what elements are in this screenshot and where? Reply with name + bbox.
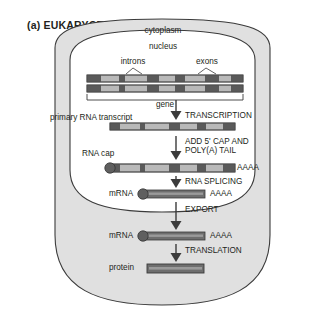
protein-bar	[147, 264, 204, 273]
figure-canvas: (a) EUKARYOTES	[0, 0, 325, 319]
dna-strand-top	[87, 75, 243, 82]
label-mrna-cytoplasmic: mRNA	[109, 232, 133, 240]
label-polya-capped: AAAA	[237, 164, 259, 172]
label-polya-nuclear: AAAA	[210, 190, 232, 198]
step-label-translation: TRANSLATION	[185, 246, 242, 255]
rna-cap-marker-nuclear	[138, 189, 148, 199]
rna-cap-marker	[105, 163, 115, 173]
rna-cap-marker-cytoplasmic	[138, 231, 148, 241]
step-label-capping-line1: ADD 5' CAP AND	[185, 137, 249, 146]
primary-rna-transcript-bar	[110, 123, 235, 130]
label-nucleus: nucleus	[149, 43, 177, 51]
label-primary-rna-transcript: primary RNA transcript	[50, 114, 132, 122]
mrna-cytoplasmic-bar	[138, 231, 205, 241]
capped-transcript-bar	[105, 163, 235, 173]
step-label-splicing: RNA SPLICING	[185, 177, 242, 186]
label-cytoplasm: cytoplasm	[145, 27, 182, 35]
label-protein: protein	[109, 264, 134, 272]
dna-strand-bottom	[87, 85, 243, 92]
label-mrna-nuclear: mRNA	[109, 190, 133, 198]
step-label-export: EXPORT	[185, 205, 219, 214]
label-introns: introns	[121, 58, 146, 66]
step-label-transcription: TRANSCRIPTION	[185, 111, 252, 120]
label-rna-cap: RNA cap	[82, 150, 114, 158]
label-polya-cytoplasmic: AAAA	[210, 232, 232, 240]
step-label-capping-line2: POLY(A) TAIL	[185, 146, 236, 155]
step-label-capping: ADD 5' CAP ANDPOLY(A) TAIL	[185, 137, 249, 156]
label-exons: exons	[196, 58, 218, 66]
mrna-nuclear-bar	[138, 189, 205, 199]
label-gene: gene	[156, 101, 174, 109]
